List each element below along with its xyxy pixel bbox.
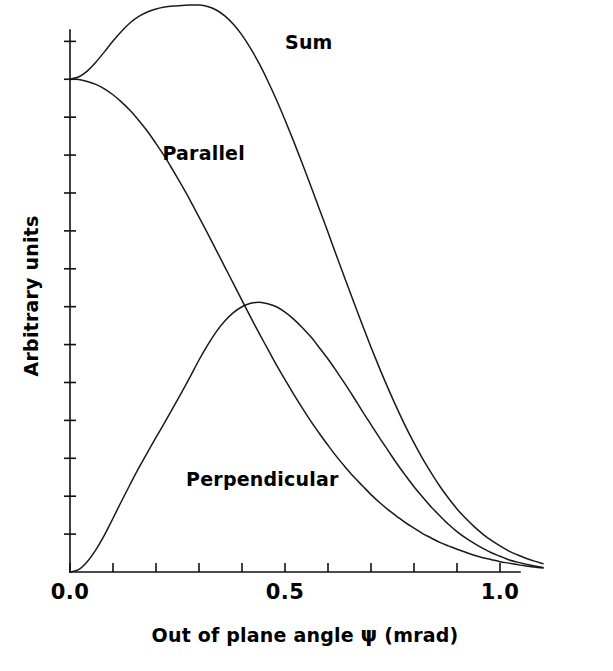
x-tick-label: 0.5 [266,580,305,604]
x-axis-title: Out of plane angle ψ (mrad) [152,623,459,647]
x-tick-label: 1.0 [481,580,520,604]
x-axis-title-prefix: Out of plane angle [152,624,361,646]
curve-parallel [70,79,543,568]
figure-container: 0.00.51.0 SumParallelPerpendicular Out o… [0,0,613,671]
axes [64,30,520,572]
y-axis-title: Arbitrary units [20,216,42,377]
tick-labels: 0.00.51.0 [51,580,520,604]
series-label-perpendicular: Perpendicular [186,468,339,490]
psi-symbol: ψ [361,623,378,647]
series-label-parallel: Parallel [162,142,244,164]
x-axis-title-suffix: (mrad) [377,624,458,646]
chart-plot: 0.00.51.0 SumParallelPerpendicular Out o… [0,0,613,671]
series-label-sum: Sum [285,31,333,53]
x-tick-label: 0.0 [51,580,90,604]
curve-perpendicular [70,302,543,572]
series-annotations: SumParallelPerpendicular [162,31,338,489]
